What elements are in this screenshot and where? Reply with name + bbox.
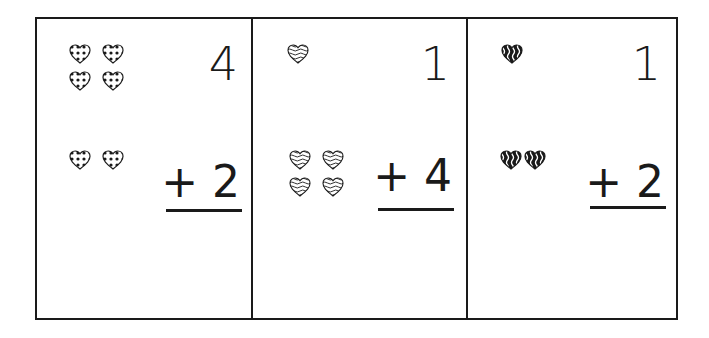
- answer-line: [166, 209, 242, 212]
- bottom-hearts-group: [69, 150, 124, 170]
- black-wavy-heart-icon: [501, 44, 523, 64]
- problem-panel-1: 4 + 2: [37, 19, 251, 318]
- polka-dot-heart-icon: [69, 44, 91, 64]
- addend-row: + 2: [585, 160, 664, 204]
- wavy-heart-icon: [289, 177, 311, 197]
- plus-operator: +: [373, 150, 410, 201]
- top-hearts-group: [501, 44, 556, 64]
- plus-operator: +: [585, 156, 622, 207]
- problem-panel-2: 1 + 4: [251, 19, 466, 318]
- bottom-hearts-group: [289, 150, 344, 197]
- polka-dot-heart-icon: [102, 44, 124, 64]
- wavy-heart-icon: [287, 44, 309, 64]
- problem-panel-3: 1 + 2: [466, 19, 676, 318]
- plus-operator: +: [161, 156, 198, 207]
- wavy-heart-icon: [322, 177, 344, 197]
- bottom-number: 4: [424, 150, 452, 201]
- top-number: 1: [421, 41, 450, 87]
- polka-dot-heart-icon: [69, 71, 91, 91]
- black-wavy-heart-icon: [500, 150, 522, 170]
- polka-dot-heart-icon: [102, 71, 124, 91]
- top-hearts-group: [287, 44, 342, 64]
- bottom-number: 2: [636, 156, 664, 207]
- wavy-heart-icon: [289, 150, 311, 170]
- addend-row: + 4: [373, 154, 452, 198]
- polka-dot-heart-icon: [69, 150, 91, 170]
- polka-dot-heart-icon: [102, 150, 124, 170]
- black-wavy-heart-icon: [524, 150, 546, 170]
- top-hearts-group: [69, 44, 124, 91]
- top-number: 4: [209, 41, 238, 87]
- answer-line: [378, 208, 454, 211]
- addition-worksheet: 4 + 2 1 + 4 1 + 2: [35, 17, 678, 320]
- answer-line: [590, 206, 666, 209]
- bottom-number: 2: [212, 156, 240, 207]
- top-number: 1: [632, 41, 661, 87]
- wavy-heart-icon: [322, 150, 344, 170]
- addend-row: + 2: [161, 160, 240, 204]
- bottom-hearts-group: [500, 150, 546, 170]
